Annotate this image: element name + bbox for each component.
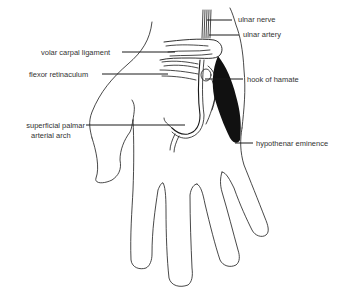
label-hook-of-hamate: hook of hamate	[247, 75, 299, 84]
label-superficial-palmar-line2: arterial arch	[31, 131, 71, 140]
hypothenar-eminence-shading	[213, 56, 241, 143]
label-hypothenar-eminence: hypothenar eminence	[256, 139, 328, 148]
ulnar-artery-vessel	[208, 10, 209, 38]
metacarpal-line	[132, 100, 134, 120]
label-superficial-palmar-line1: superficial palmar	[18, 121, 85, 130]
hand-drawing	[0, 0, 349, 298]
thumb-outline	[92, 120, 133, 183]
label-volar-carpal-ligament: volar carpal ligament	[41, 48, 110, 57]
palmar-arch-branch	[164, 118, 172, 128]
anatomy-diagram: ulnar nerve ulnar artery volar carpal li…	[0, 0, 349, 298]
label-ulnar-artery: ulnar artery	[243, 30, 281, 39]
palmar-arch-branch	[174, 136, 179, 152]
flexor-retinaculum-band	[162, 61, 198, 64]
ulnar-nerve-vessel	[206, 10, 207, 38]
ulnar-nerve-vessel	[202, 10, 203, 38]
label-flexor-retinaculum: flexor retinaculum	[29, 70, 88, 79]
middle-finger-outline	[163, 183, 197, 286]
ulnar-nerve-vessel	[204, 10, 205, 38]
forearm-radial-edge	[90, 22, 152, 138]
ulnar-artery-vessel	[210, 10, 211, 38]
volar-carpal-ligament-band	[160, 39, 222, 60]
index-finger-outline	[131, 120, 163, 269]
label-ulnar-nerve: ulnar nerve	[238, 15, 276, 24]
